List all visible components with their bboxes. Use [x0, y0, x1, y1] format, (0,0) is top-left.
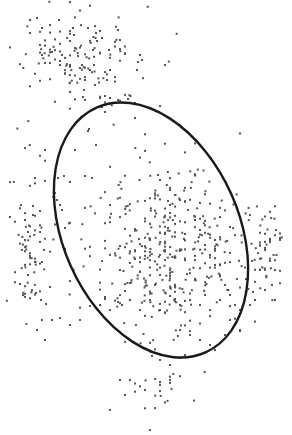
data-point: [199, 304, 201, 306]
data-point: [109, 216, 111, 218]
data-point: [163, 265, 165, 267]
data-point: [25, 323, 27, 325]
data-point: [29, 144, 31, 146]
data-point: [39, 290, 41, 292]
data-point: [41, 319, 43, 321]
data-point: [111, 104, 113, 106]
data-point: [219, 216, 221, 218]
data-point: [39, 44, 41, 46]
data-point: [154, 407, 156, 409]
data-point: [40, 48, 42, 50]
data-point: [269, 260, 271, 262]
data-point: [274, 259, 276, 261]
data-point: [209, 226, 211, 228]
data-point: [261, 219, 263, 221]
data-point: [219, 299, 221, 301]
data-point: [149, 161, 151, 163]
data-point: [44, 180, 46, 182]
data-point: [209, 234, 211, 236]
data-point: [174, 215, 176, 217]
data-point: [108, 49, 110, 51]
data-point: [214, 257, 216, 259]
data-point: [169, 216, 171, 218]
data-point: [158, 256, 160, 258]
data-point: [270, 217, 272, 219]
data-point: [251, 243, 253, 245]
data-point: [92, 36, 94, 38]
data-point: [92, 49, 94, 51]
data-point: [151, 316, 153, 318]
data-point: [138, 238, 140, 240]
data-point: [163, 289, 165, 291]
data-point: [109, 204, 111, 206]
data-point: [199, 323, 201, 325]
data-point: [275, 229, 277, 231]
data-point: [88, 57, 90, 59]
data-point: [25, 248, 27, 250]
data-point: [114, 252, 116, 254]
data-point: [28, 225, 30, 227]
data-point: [164, 249, 166, 251]
data-point: [194, 259, 196, 261]
data-point: [159, 179, 161, 181]
data-point: [197, 169, 199, 171]
data-point: [256, 205, 258, 207]
data-point: [204, 294, 206, 296]
data-point: [93, 64, 95, 66]
data-point: [19, 243, 21, 245]
data-point: [169, 277, 171, 279]
data-point: [64, 57, 66, 59]
data-point: [106, 73, 108, 75]
data-point: [172, 219, 174, 221]
data-point: [149, 299, 151, 301]
confidence-ellipse: [16, 72, 286, 388]
data-point: [117, 29, 119, 31]
data-point: [179, 375, 181, 377]
data-point: [90, 205, 92, 207]
data-point: [22, 67, 24, 69]
data-point: [125, 213, 127, 215]
data-point: [84, 207, 86, 209]
data-point: [164, 246, 166, 248]
data-point: [109, 54, 111, 56]
data-point: [124, 341, 126, 343]
data-point: [74, 75, 76, 77]
data-point: [21, 267, 23, 269]
data-point: [139, 271, 141, 273]
data-point: [186, 273, 188, 275]
data-point: [124, 228, 126, 230]
data-point: [22, 294, 24, 296]
data-point: [149, 239, 151, 241]
data-point: [259, 269, 261, 271]
data-point: [49, 51, 51, 53]
data-point: [58, 19, 60, 21]
data-point: [204, 224, 206, 226]
data-point: [133, 257, 135, 259]
data-point: [169, 267, 171, 269]
data-point: [129, 209, 131, 211]
data-point: [249, 214, 251, 216]
data-point: [147, 6, 149, 8]
data-point: [24, 212, 26, 214]
data-point: [174, 231, 176, 233]
data-point: [219, 207, 221, 209]
data-point: [224, 251, 226, 253]
data-point: [229, 294, 231, 296]
data-point: [159, 243, 161, 245]
data-point: [167, 227, 169, 229]
data-point: [104, 111, 106, 113]
data-point: [209, 309, 211, 311]
data-point: [89, 5, 91, 7]
data-point: [111, 283, 113, 285]
data-point: [77, 55, 79, 57]
data-point: [178, 172, 180, 174]
data-point: [167, 171, 169, 173]
data-point: [199, 249, 201, 251]
data-point: [54, 224, 56, 226]
data-point: [73, 34, 75, 36]
data-point: [169, 274, 171, 276]
data-point: [174, 291, 176, 293]
data-point: [199, 267, 201, 269]
data-point: [149, 175, 151, 177]
data-point: [169, 212, 171, 214]
